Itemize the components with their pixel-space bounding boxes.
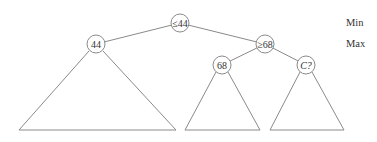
edge-n68max-nC <box>273 48 298 61</box>
tree-node-n44: 44 <box>87 35 105 53</box>
node-label: 68 <box>217 60 227 71</box>
nodes: ≤4444≥6868C? <box>87 14 315 74</box>
node-label: ≤44 <box>172 18 188 29</box>
tree-node-n68max: ≥68 <box>256 35 274 53</box>
tree-node-n68: 68 <box>213 56 231 74</box>
edge-root-n44 <box>105 25 172 42</box>
tree-node-root: ≤44 <box>171 14 189 32</box>
edge-n68max-n68 <box>230 48 257 61</box>
node-label: ≥68 <box>257 39 273 50</box>
subtree-68-triangle <box>185 72 260 130</box>
level-labels: Min Max <box>346 17 366 49</box>
node-label: C? <box>300 60 312 71</box>
subtree-44-triangle <box>19 51 176 130</box>
edge-root-n68max <box>189 25 257 42</box>
minimax-tree-diagram: ≤4444≥6868C? Min Max <box>0 0 377 142</box>
level-label-min: Min <box>346 17 364 28</box>
subtrees <box>19 51 344 130</box>
node-label: 44 <box>91 39 101 50</box>
level-label-max: Max <box>346 38 366 49</box>
tree-node-nC: C? <box>297 56 315 74</box>
subtree-C-triangle <box>270 72 344 130</box>
